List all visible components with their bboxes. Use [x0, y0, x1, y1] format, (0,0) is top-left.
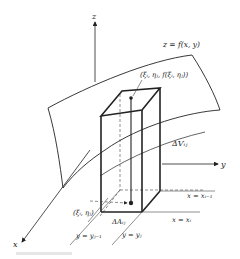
faded-caption: [16, 252, 72, 255]
grid-label-x-prev: x = xᵢ₋₁: [187, 192, 212, 200]
x-axis-label: x: [13, 240, 18, 249]
z-axis-label: z: [91, 12, 97, 21]
top-pointer: [133, 80, 142, 96]
volume-label: ΔVᵢⱼ: [171, 139, 188, 148]
point-base-label: (ξᵢ, ηⱼ): [73, 209, 94, 217]
surface-label: z = f(x, y): [162, 40, 200, 49]
y-axis-label: y: [220, 160, 226, 169]
surface: [48, 55, 220, 188]
grid-label-y-prev: y = yⱼ₋₁: [75, 232, 102, 240]
x-axis: [22, 150, 90, 242]
area-label: ΔAᵢⱼ: [111, 218, 126, 226]
grid-label-y-curr: y = yⱼ: [121, 231, 142, 239]
grid-label-x-curr: x = xᵢ: [172, 216, 192, 224]
point-top-label: (ξᵢ, ηⱼ, f(ξᵢ, ηⱼ)): [140, 71, 188, 79]
volume-element-diagram: z y x z = f(x, y) (ξᵢ, ηⱼ, f(ξᵢ, ηⱼ)) ΔV…: [0, 0, 240, 259]
point-top-marker: [129, 96, 133, 100]
point-base-marker: [129, 201, 133, 205]
